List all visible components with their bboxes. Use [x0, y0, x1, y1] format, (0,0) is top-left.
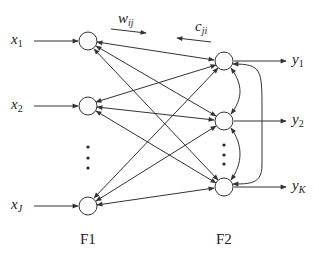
- connections: [94, 42, 218, 205]
- backward-weight-arrow: [177, 38, 211, 42]
- f1-node-J: [79, 197, 97, 215]
- backward-weight-label: cji: [195, 19, 207, 36]
- output-label-1: y1: [292, 52, 304, 69]
- layer-label-f1: F1: [80, 232, 96, 247]
- forward-weight-arrow: [111, 29, 146, 33]
- f2-node-2: [215, 112, 233, 130]
- f1-node-1: [79, 32, 97, 50]
- f1-node-2: [79, 97, 97, 115]
- network-diagram: [0, 0, 319, 256]
- forward-weight-label: wij: [118, 11, 134, 28]
- layer-label-f2: F2: [216, 232, 232, 247]
- input-label-2: x2: [11, 97, 23, 114]
- input-label-1: x1: [11, 32, 23, 49]
- f2-node-1: [215, 52, 233, 70]
- f2-node-K: [215, 178, 233, 196]
- output-label-2: y2: [292, 112, 304, 129]
- lateral-connections: [231, 64, 262, 184]
- input-label-J: xJ: [11, 197, 22, 214]
- output-label-K: yK: [292, 178, 305, 195]
